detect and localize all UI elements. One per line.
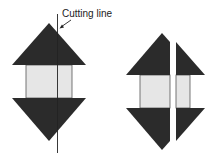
center-rectangle bbox=[26, 65, 72, 98]
diagram-canvas: Cutting line bbox=[0, 0, 216, 165]
right-piece-rectangle bbox=[176, 75, 190, 108]
left-piece-top-triangle bbox=[126, 33, 170, 75]
right-piece-bottom-triangle bbox=[176, 108, 205, 141]
top-triangle bbox=[12, 23, 86, 65]
figure-before-cut: Cutting line bbox=[12, 8, 112, 153]
left-piece-bottom-triangle bbox=[126, 108, 170, 150]
figure-after-cut bbox=[126, 33, 205, 150]
bottom-triangle bbox=[12, 98, 86, 141]
left-piece-rectangle bbox=[140, 75, 170, 108]
cutting-line-label: Cutting line bbox=[62, 8, 112, 19]
right-piece-top-triangle bbox=[176, 42, 205, 75]
